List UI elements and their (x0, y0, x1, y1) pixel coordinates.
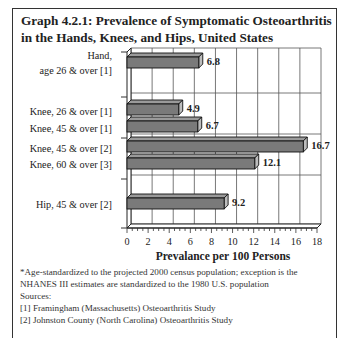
x-tick-label: 10 (225, 236, 241, 247)
x-tick-label: 8 (203, 236, 219, 247)
footnotes: *Age-standardized to the projected 2000 … (20, 266, 338, 326)
source-2: [2] Johnston County (North Carolina) Ost… (20, 314, 338, 326)
category-label: Knee, 60 & over [3] (30, 158, 112, 171)
x-axis-label: Prevalance per 100 Persons (128, 250, 318, 262)
x-tick-label: 16 (288, 236, 304, 247)
category-label: Hip, 45 & over [2] (36, 198, 112, 211)
x-tick-label: 2 (140, 236, 156, 247)
svg-text:12.1: 12.1 (263, 157, 281, 168)
svg-text:6.7: 6.7 (206, 120, 219, 131)
category-label: Knee, 45 & over [2] (30, 142, 112, 155)
svg-text:16.7: 16.7 (311, 140, 329, 151)
source-1: [1] Framingham (Massachusetts) Osteoarth… (20, 302, 338, 314)
svg-text:9.2: 9.2 (232, 197, 245, 208)
sources-label: Sources: (20, 290, 338, 302)
x-tick-label: 4 (161, 236, 177, 247)
category-label: Knee, 26 & over [1] (30, 105, 112, 118)
category-label: age 26 & over [1] (40, 64, 112, 77)
footnote-nhanes: NHANES III estimates are standardized to… (20, 278, 338, 290)
x-tick-label: 14 (267, 236, 283, 247)
svg-text:4.9: 4.9 (187, 103, 200, 114)
x-tick-label: 0 (119, 236, 135, 247)
svg-text:6.8: 6.8 (207, 56, 220, 67)
category-label: Hand, (87, 49, 112, 62)
footnote-age-standardized: *Age-standardized to the projected 2000 … (20, 266, 338, 278)
x-tick-label: 18 (309, 236, 325, 247)
x-tick-label: 6 (182, 236, 198, 247)
x-tick-label: 12 (246, 236, 262, 247)
category-label: Knee, 45 & over [1] (30, 122, 112, 135)
